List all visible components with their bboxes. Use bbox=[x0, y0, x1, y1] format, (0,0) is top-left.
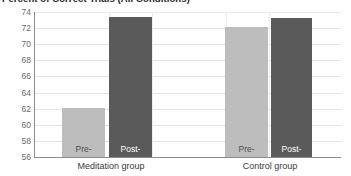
y-tick-64: 64 bbox=[1, 88, 31, 98]
bar-control-post[interactable]: Post- bbox=[271, 18, 312, 157]
gridline-74 bbox=[35, 12, 341, 13]
plot-area: Pre- Post- Pre- Post- bbox=[34, 12, 341, 158]
y-axis: 74 72 70 68 66 64 62 60 58 56 bbox=[0, 12, 31, 157]
bar-label-control-pre: Pre- bbox=[225, 144, 268, 154]
vertical-gridline-4 bbox=[269, 12, 270, 157]
plot-inner: Pre- Post- Pre- Post- bbox=[35, 12, 341, 157]
bar-chart-figure: Percent of Correct Trials (All Condition… bbox=[0, 0, 351, 176]
y-tick-72: 72 bbox=[1, 23, 31, 33]
y-tick-66: 66 bbox=[1, 71, 31, 81]
bar-meditation-post[interactable]: Post- bbox=[109, 17, 152, 157]
bar-control-pre[interactable]: Pre- bbox=[225, 27, 268, 157]
y-tick-70: 70 bbox=[1, 39, 31, 49]
y-tick-58: 58 bbox=[1, 136, 31, 146]
bar-meditation-pre[interactable]: Pre- bbox=[62, 108, 105, 157]
vertical-gridline-2 bbox=[152, 12, 153, 157]
bar-label-meditation-pre: Pre- bbox=[62, 144, 105, 154]
chart-title: Percent of Correct Trials (All Condition… bbox=[2, 0, 190, 4]
y-tick-74: 74 bbox=[1, 7, 31, 17]
y-tick-56: 56 bbox=[1, 152, 31, 162]
y-tick-62: 62 bbox=[1, 104, 31, 114]
group-label-control: Control group bbox=[225, 161, 315, 171]
y-tick-60: 60 bbox=[1, 120, 31, 130]
y-tick-68: 68 bbox=[1, 55, 31, 65]
bar-label-control-post: Post- bbox=[271, 144, 312, 154]
bar-label-meditation-post: Post- bbox=[109, 144, 152, 154]
group-label-meditation: Meditation group bbox=[61, 161, 161, 171]
